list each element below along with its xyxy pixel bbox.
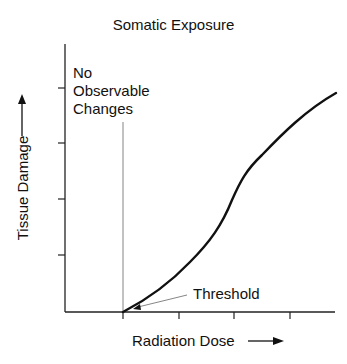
y-arrow-head-icon bbox=[18, 94, 26, 104]
chart-title: Somatic Exposure bbox=[0, 16, 347, 33]
threshold-label: Threshold bbox=[193, 285, 260, 302]
x-ticks bbox=[123, 312, 290, 319]
label-line: No bbox=[73, 64, 150, 82]
x-arrow-head-icon bbox=[273, 337, 284, 345]
chart-canvas bbox=[0, 0, 347, 364]
no-observable-changes-label: No Observable Changes bbox=[73, 64, 150, 118]
y-ticks bbox=[58, 88, 65, 255]
label-line: Observable bbox=[73, 82, 150, 100]
threshold-pointer-line bbox=[138, 295, 187, 307]
x-axis-label: Radiation Dose bbox=[132, 332, 235, 349]
label-line: Changes bbox=[73, 100, 150, 118]
y-axis-label: Tissue Damage bbox=[14, 136, 31, 241]
response-curve bbox=[123, 93, 336, 312]
